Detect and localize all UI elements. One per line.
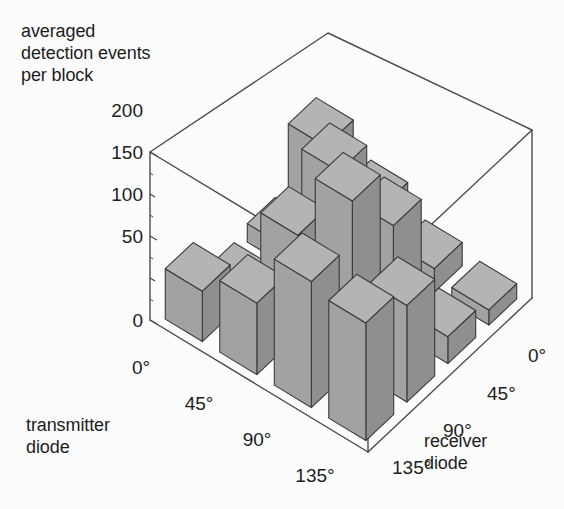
y-tick-45: 45°: [487, 383, 516, 404]
chart-title: averaged detection events per block: [21, 20, 151, 86]
bar-135deg-135deg: [329, 274, 394, 440]
x-axis-title: transmitter diode: [26, 414, 110, 458]
bar-group: [165, 98, 516, 441]
z-tick-50: 50: [122, 226, 143, 247]
z-tick-0: 0: [132, 310, 143, 331]
x-tick-45: 45°: [185, 393, 214, 414]
z-tick-labels: 0 50 100 150 200: [111, 100, 143, 331]
bar-face-right: [329, 301, 366, 441]
y-tick-0: 0°: [528, 345, 546, 366]
x-tick-135: 135°: [295, 465, 334, 486]
bar-face-right: [274, 259, 311, 407]
z-tick-200: 200: [111, 100, 143, 121]
z-tick-150: 150: [111, 142, 143, 163]
x-tick-90: 90°: [243, 429, 272, 450]
z-axis-ticks: [150, 152, 157, 324]
y-axis-title: receiver diode: [424, 430, 487, 474]
chart-canvas: 0 50 100 150 200 0° 45° 90° 135° 0° 45° …: [0, 0, 564, 509]
z-tick-100: 100: [111, 184, 143, 205]
x-tick-0: 0°: [132, 357, 150, 378]
